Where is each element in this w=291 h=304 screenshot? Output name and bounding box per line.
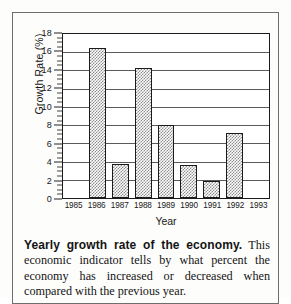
bar-slot [63, 34, 86, 198]
y-tick-label: 0 [47, 194, 52, 204]
y-tick-major [54, 199, 62, 200]
bar-slot [246, 34, 269, 198]
y-tick-label: 4 [47, 157, 52, 167]
y-tick-major [54, 125, 62, 126]
bar-slot [200, 34, 223, 198]
bar [158, 125, 175, 198]
y-axis-tick-labels: 024681012141618 [26, 33, 52, 199]
x-tick-label: 1987 [108, 201, 131, 210]
x-axis-tick-labels: 198519861987198819891990199119921993 [62, 201, 270, 210]
y-tick-major [54, 69, 62, 70]
figure-caption: Yearly growth rate of the economy. This … [24, 238, 270, 300]
bar-slot [86, 34, 109, 198]
x-tick-label: 1992 [224, 201, 247, 210]
y-tick-major [54, 162, 62, 163]
y-tick-label: 6 [47, 139, 52, 149]
y-tick-major [54, 106, 62, 107]
caption-lead: Yearly growth rate of the economy. [24, 238, 242, 252]
y-tick-major [54, 51, 62, 52]
bar-chart: Growth Rate (%) 024681012141618 19851986… [12, 12, 279, 230]
y-tick-label: 8 [47, 120, 52, 130]
y-axis-tick-marks [54, 33, 62, 199]
bar-slot [109, 34, 132, 198]
bar [89, 48, 106, 198]
y-tick-major [54, 143, 62, 144]
x-tick-label: 1990 [178, 201, 201, 210]
y-tick-major [54, 180, 62, 181]
bar-slot [132, 34, 155, 198]
y-tick-major [54, 33, 62, 34]
x-tick-label: 1986 [85, 201, 108, 210]
y-tick-label: 10 [42, 102, 52, 112]
x-tick-label: 1989 [154, 201, 177, 210]
bar [135, 68, 152, 198]
bar [112, 164, 129, 198]
plot-frame [62, 33, 270, 199]
x-axis-label: Year [62, 215, 270, 227]
y-tick-label: 14 [42, 65, 52, 75]
y-tick-label: 12 [42, 83, 52, 93]
y-tick-label: 2 [47, 176, 52, 186]
x-tick-label: 1991 [201, 201, 224, 210]
x-tick-label: 1993 [247, 201, 270, 210]
y-tick-label: 18 [42, 28, 52, 38]
bar [203, 181, 220, 198]
bar [226, 133, 243, 198]
x-tick-label: 1985 [62, 201, 85, 210]
bar-series [63, 34, 269, 198]
bar-slot [155, 34, 178, 198]
bar [180, 165, 197, 198]
y-tick-major [54, 88, 62, 89]
y-tick-label: 16 [42, 46, 52, 56]
x-tick-label: 1988 [131, 201, 154, 210]
bar-slot [223, 34, 246, 198]
bar-slot [177, 34, 200, 198]
